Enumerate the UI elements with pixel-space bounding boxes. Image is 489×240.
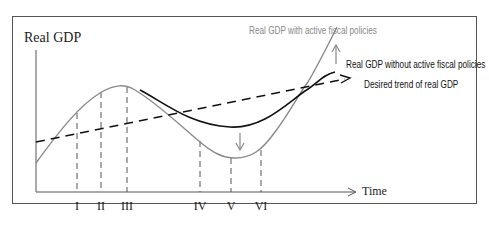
tick-label: II (97, 199, 105, 214)
legend-without-fiscal: Real GDP without active fiscal policies (346, 59, 485, 70)
period-markers (77, 87, 261, 192)
x-axis-label: Time (362, 184, 387, 199)
tick-label: I (75, 199, 79, 214)
tick-label: IV (194, 199, 207, 214)
curve-without-fiscal (140, 72, 335, 127)
y-axis-label: Real GDP (24, 30, 81, 46)
tick-label: V (227, 199, 236, 214)
down-arrow-icon (236, 133, 244, 150)
legend-desired-trend: Desired trend of real GDP (364, 79, 458, 90)
curve-with-fiscal (36, 27, 337, 163)
legend-active-fiscal: Real GDP with active fiscal policies (249, 25, 377, 36)
tick-label: III (121, 199, 133, 214)
up-arrow-icon (332, 45, 340, 64)
trend-line (36, 79, 345, 142)
tick-label: VI (255, 199, 268, 214)
